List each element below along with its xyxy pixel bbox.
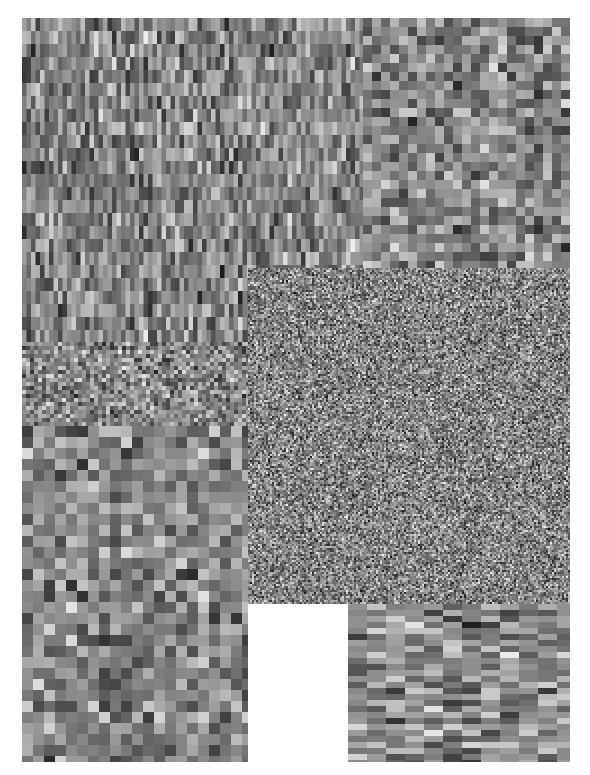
grayscale-noise-image [0,0,590,775]
noise-image-container [0,0,590,775]
